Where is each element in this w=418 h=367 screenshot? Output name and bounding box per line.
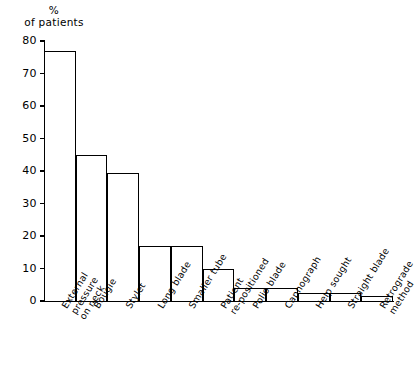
y-axis-tick-label: 10 bbox=[22, 262, 37, 275]
tick-mark-icon bbox=[40, 40, 45, 41]
y-axis-tick-label: 40 bbox=[22, 164, 37, 177]
y-axis-title: % of patients bbox=[8, 4, 100, 28]
y-axis-tick-label: 20 bbox=[22, 229, 37, 242]
y-axis-tick-label: 0 bbox=[30, 294, 37, 307]
y-axis-tick-label: 80 bbox=[22, 34, 37, 47]
y-axis-title-line-1: % bbox=[8, 4, 100, 16]
bar bbox=[44, 51, 76, 301]
y-axis-title-line-2: of patients bbox=[8, 16, 100, 28]
y-axis-tick-label: 60 bbox=[22, 99, 37, 112]
y-axis-tick-label: 30 bbox=[22, 197, 37, 210]
y-axis-tick-label: 70 bbox=[22, 67, 37, 80]
x-axis-label: Retrogrademethod bbox=[378, 259, 418, 316]
y-axis-tick-label: 50 bbox=[22, 132, 37, 145]
